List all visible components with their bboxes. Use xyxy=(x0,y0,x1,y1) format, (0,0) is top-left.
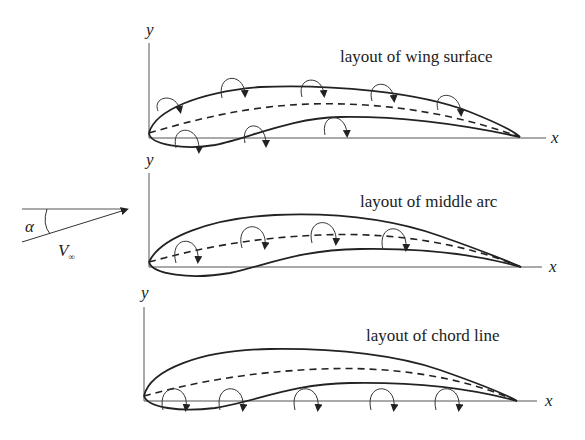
vortex-icon xyxy=(435,389,459,410)
vortex-icon xyxy=(382,229,406,250)
vortex-icon xyxy=(311,223,336,243)
velocity-label: V∞ xyxy=(58,241,75,262)
vortex-icons xyxy=(162,389,459,410)
angle-arc xyxy=(45,209,50,234)
upper-surface xyxy=(149,86,520,137)
x-axis-label: x xyxy=(544,391,553,410)
vortex-icon xyxy=(370,389,394,410)
freestream-indicator: α V∞ xyxy=(22,209,125,262)
vortex-icon xyxy=(244,126,266,144)
lower-surface xyxy=(144,383,517,410)
vortex-icon xyxy=(157,98,180,111)
vortex-icon xyxy=(324,118,347,135)
y-axis-label: y xyxy=(144,20,154,39)
y-axis-label: y xyxy=(139,283,149,302)
vortex-icon xyxy=(301,80,324,97)
upper-surface xyxy=(149,214,521,267)
vortex-icon xyxy=(241,227,265,248)
panel-middle-arc: y x layout of middle arc xyxy=(144,150,557,276)
airfoil-vortex-diagram: α V∞ y x layout of wing surface y x layo… xyxy=(0,0,585,440)
x-axis-label: x xyxy=(548,257,557,276)
y-axis-label: y xyxy=(144,150,154,169)
panel-chord-line: y x layout of chord line xyxy=(139,283,553,410)
lower-surface xyxy=(149,249,521,276)
upper-surface xyxy=(144,349,517,401)
x-axis-label: x xyxy=(550,128,559,147)
panel-title: layout of middle arc xyxy=(360,192,498,211)
lower-surface xyxy=(149,117,520,147)
alpha-label: α xyxy=(25,217,35,236)
velocity-arrow-icon xyxy=(22,210,125,242)
panel-title: layout of chord line xyxy=(366,326,500,345)
panel-wing-surface: y x layout of wing surface xyxy=(144,20,559,150)
panel-title: layout of wing surface xyxy=(340,47,492,66)
vortex-icon xyxy=(294,389,318,410)
mean-camber-line xyxy=(149,104,520,137)
vortex-icons xyxy=(157,78,461,150)
